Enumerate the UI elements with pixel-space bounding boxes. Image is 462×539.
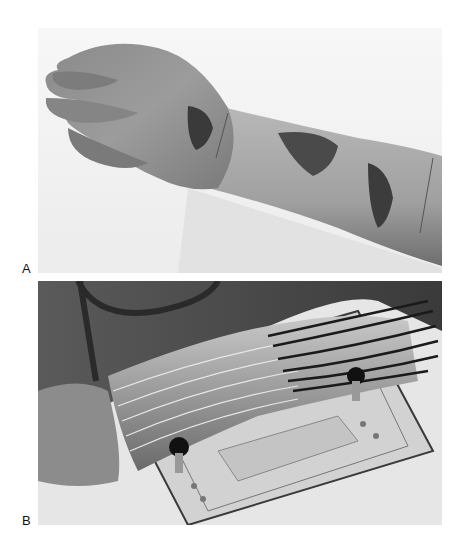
- forearm-sleeve-device-photo: [38, 281, 442, 525]
- screw: [191, 483, 197, 489]
- screw: [373, 433, 379, 439]
- hand-exposed: [38, 384, 119, 487]
- figure-panel-b: [38, 281, 442, 525]
- panel-label-b: B: [22, 514, 31, 527]
- knob-post-left: [175, 453, 183, 473]
- forearm-wound-photo: [38, 28, 442, 273]
- figure-panel-a: [38, 28, 442, 273]
- screw: [360, 421, 366, 427]
- knob-post-right: [352, 381, 360, 401]
- screw: [200, 496, 206, 502]
- panel-label-a: A: [22, 262, 31, 275]
